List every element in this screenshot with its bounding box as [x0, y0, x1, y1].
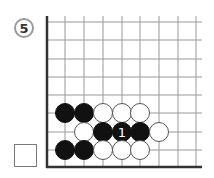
- black-stone[interactable]: [56, 141, 75, 160]
- black-stone[interactable]: [131, 123, 150, 142]
- white-stone[interactable]: [94, 104, 113, 123]
- move-number-label: 1: [118, 125, 126, 140]
- black-stone[interactable]: [75, 104, 94, 123]
- white-stone[interactable]: [131, 141, 150, 160]
- white-stone[interactable]: [75, 123, 94, 142]
- black-stone[interactable]: [94, 123, 113, 142]
- white-stone[interactable]: [113, 141, 132, 160]
- answer-checkbox[interactable]: [14, 144, 37, 167]
- white-stone[interactable]: [131, 104, 150, 123]
- white-stone[interactable]: [150, 123, 169, 142]
- black-stone[interactable]: [75, 141, 94, 160]
- white-stone[interactable]: [113, 104, 132, 123]
- white-stone[interactable]: [94, 141, 113, 160]
- black-stone[interactable]: [56, 104, 75, 123]
